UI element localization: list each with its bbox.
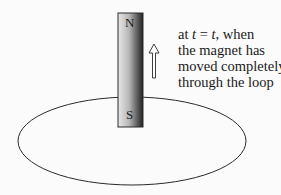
up-arrow-icon: [149, 44, 159, 78]
diagram-canvas: N S at t = t, when the magnet has moved …: [0, 0, 281, 195]
caption-prefix: at: [178, 26, 192, 42]
north-pole-label: N: [125, 15, 134, 31]
caption-line-1: at t = t, when: [178, 26, 281, 42]
caption-line-3: moved completely: [178, 58, 281, 74]
equals-sign: =: [196, 26, 211, 42]
caption-line-4: through the loop: [178, 74, 281, 90]
south-pole-label: S: [126, 107, 133, 123]
caption-suffix: , when: [216, 26, 255, 42]
caption-text: at t = t, when the magnet has moved comp…: [178, 26, 281, 90]
caption-line-2: the magnet has: [178, 42, 281, 58]
